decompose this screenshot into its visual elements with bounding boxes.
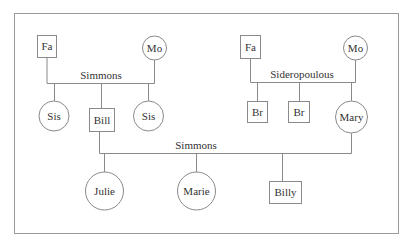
node-label: Br	[294, 106, 305, 118]
node-label: Marie	[183, 185, 209, 197]
family-simmons-children: Simmons Bill Mary Julie Marie Billy	[86, 101, 368, 210]
node-label: Mo	[147, 42, 163, 54]
family-surname-label: Simmons	[80, 69, 122, 81]
node-label: Br	[252, 106, 263, 118]
genogram-diagram: Simmons Fa Mo Sis Sis Sideropoulous	[0, 0, 411, 247]
node-father-simmons: Fa	[38, 36, 57, 58]
node-bill: Bill	[90, 109, 115, 132]
node-label: Sis	[142, 110, 155, 122]
node-sister-1: Sis	[39, 101, 69, 131]
node-brother-2: Br	[289, 102, 310, 123]
node-billy: Billy	[270, 182, 302, 204]
family-surname-label: Sideropoulous	[270, 68, 334, 80]
node-label: Mo	[348, 42, 364, 54]
node-sister-2: Sis	[134, 101, 164, 131]
node-brother-1: Br	[248, 102, 268, 123]
node-label: Bill	[94, 114, 111, 126]
node-mary: Mary	[336, 101, 368, 133]
node-father-sideropoulous: Fa	[241, 36, 261, 59]
node-label: Mary	[340, 111, 364, 123]
node-julie: Julie	[86, 172, 124, 210]
node-label: Julie	[94, 185, 115, 197]
node-label: Sis	[47, 110, 60, 122]
node-label: Fa	[42, 40, 53, 52]
family-surname-label: Simmons	[175, 139, 217, 151]
node-label: Fa	[245, 41, 256, 53]
node-mother-sideropoulous: Mo	[344, 36, 368, 60]
node-marie: Marie	[178, 172, 216, 210]
node-label: Billy	[274, 186, 297, 198]
node-mother-simmons: Mo	[143, 36, 167, 60]
